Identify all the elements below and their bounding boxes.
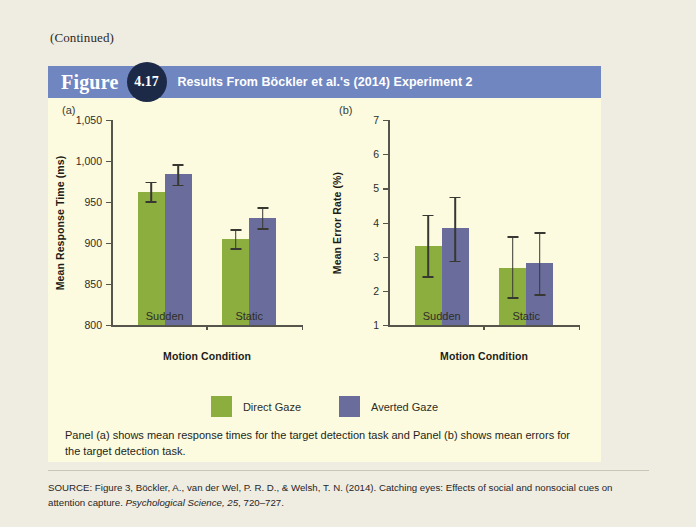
error-bar-cap-upper: [173, 164, 184, 166]
textbook-page: (Continued) Figure 4.17 Results From Böc…: [0, 0, 696, 527]
panel-b-y-axis-line: [388, 120, 390, 325]
panel-a-x-tick-end: [302, 325, 303, 330]
error-bar-cap-upper: [146, 182, 157, 184]
y-axis-tick: [383, 325, 388, 326]
error-bar: [427, 215, 429, 277]
error-bar-cap-upper: [257, 207, 268, 209]
figure-header-bar: Figure 4.17 Results From Böckler et al.'…: [48, 66, 601, 98]
y-axis-tick: [106, 284, 111, 285]
error-bar: [150, 182, 152, 202]
error-bar-cap-lower: [423, 276, 434, 278]
chart-panel-a: (a) Mean Response Time (ms) 800850900950…: [48, 98, 324, 398]
error-bar-cap-upper: [423, 215, 434, 217]
error-bar: [512, 236, 514, 297]
panel-a-letter: (a): [62, 104, 75, 116]
error-bar-cap-lower: [257, 228, 268, 230]
y-axis-tick: [383, 120, 388, 121]
error-bar-cap-lower: [230, 248, 241, 250]
legend-label-averted-gaze: Averted Gaze: [371, 401, 438, 413]
y-axis-tick-label: 850: [84, 278, 102, 290]
source-suffix: , 720–727.: [238, 497, 284, 508]
x-axis-group-label-sudden: Sudden: [423, 310, 461, 322]
y-axis-tick-label: 3: [373, 251, 379, 263]
chart-panel-b: (b) Mean Error Rate (%) 1234567 Motion C…: [325, 98, 601, 398]
y-axis-tick-label: 7: [373, 114, 379, 126]
legend-item-averted-gaze: Averted Gaze: [339, 396, 438, 417]
bar-sudden-direct-gaze: [138, 192, 165, 325]
y-axis-tick-label: 5: [373, 182, 379, 194]
bar-static-averted-gaze: [249, 218, 276, 325]
legend-swatch-averted-gaze: [339, 396, 360, 417]
continued-note: (Continued): [50, 30, 114, 46]
y-axis-tick: [383, 257, 388, 258]
y-axis-tick-label: 1: [373, 319, 379, 331]
y-axis-tick-label: 950: [84, 196, 102, 208]
y-axis-tick: [106, 325, 111, 326]
panel-b-y-axis-title: Mean Error Rate (%): [331, 138, 345, 308]
figure-source-citation: SOURCE: Figure 3, Böckler, A., van der W…: [48, 481, 644, 510]
error-bar-cap-upper: [230, 229, 241, 231]
bar-sudden-averted-gaze: [165, 174, 192, 325]
panel-a-y-axis-title: Mean Response Time (ms): [54, 138, 68, 308]
error-bar-cap-upper: [534, 232, 545, 234]
legend-label-direct-gaze: Direct Gaze: [243, 401, 301, 413]
panel-a-x-axis-title: Motion Condition: [111, 350, 303, 362]
error-bar-cap-upper: [450, 197, 461, 199]
error-bar-cap-lower: [173, 185, 184, 187]
y-axis-tick: [383, 291, 388, 292]
source-journal: Psychological Science, 25: [126, 497, 239, 508]
figure-title: Results From Böckler et al.'s (2014) Exp…: [178, 75, 473, 89]
y-axis-tick-label: 2: [373, 285, 379, 297]
panel-a-plot-area: 8008509009501,0001,050: [111, 120, 303, 325]
source-divider: [48, 470, 649, 471]
panel-b-plot-area: 1234567: [388, 120, 580, 325]
y-axis-tick-label: 4: [373, 217, 379, 229]
x-axis-group-label-sudden: Sudden: [146, 310, 184, 322]
figure-word-label: Figure: [61, 71, 119, 94]
panel-a-y-axis-line: [111, 120, 113, 325]
y-axis-tick-label: 1,000: [76, 155, 102, 167]
chart-legend: Direct Gaze Averted Gaze: [48, 396, 601, 417]
legend-swatch-direct-gaze: [211, 396, 232, 417]
figure-caption: Panel (a) shows mean response times for …: [65, 428, 585, 460]
figure-panel: Figure 4.17 Results From Böckler et al.'…: [48, 66, 601, 462]
y-axis-tick-label: 6: [373, 148, 379, 160]
error-bar: [177, 164, 179, 185]
error-bar: [454, 197, 456, 261]
panel-b-letter: (b): [339, 104, 352, 116]
y-axis-tick-label: 1,050: [76, 114, 102, 126]
figure-number-badge: 4.17: [127, 62, 167, 102]
panel-a-x-tick-mid: [206, 325, 207, 330]
x-axis-group-label-static: Static: [235, 310, 263, 322]
y-axis-tick: [106, 161, 111, 162]
error-bar: [235, 229, 237, 248]
panel-b-x-tick-mid: [483, 325, 484, 330]
error-bar-cap-upper: [507, 236, 518, 238]
y-axis-tick: [106, 120, 111, 121]
error-bar-cap-lower: [146, 201, 157, 203]
error-bar: [539, 232, 541, 294]
x-axis-group-label-static: Static: [512, 310, 540, 322]
error-bar-cap-lower: [507, 297, 518, 299]
legend-item-direct-gaze: Direct Gaze: [211, 396, 301, 417]
error-bar-cap-lower: [450, 261, 461, 263]
panel-b-x-axis-title: Motion Condition: [388, 350, 580, 362]
y-axis-tick: [106, 243, 111, 244]
error-bar-cap-lower: [534, 294, 545, 296]
y-axis-tick-label: 900: [84, 237, 102, 249]
y-axis-tick: [383, 223, 388, 224]
error-bar: [262, 207, 264, 228]
panel-b-x-tick-end: [579, 325, 580, 330]
y-axis-tick: [383, 188, 388, 189]
charts-container: (a) Mean Response Time (ms) 800850900950…: [48, 98, 601, 398]
y-axis-tick: [383, 154, 388, 155]
y-axis-tick: [106, 202, 111, 203]
y-axis-tick-label: 800: [84, 319, 102, 331]
